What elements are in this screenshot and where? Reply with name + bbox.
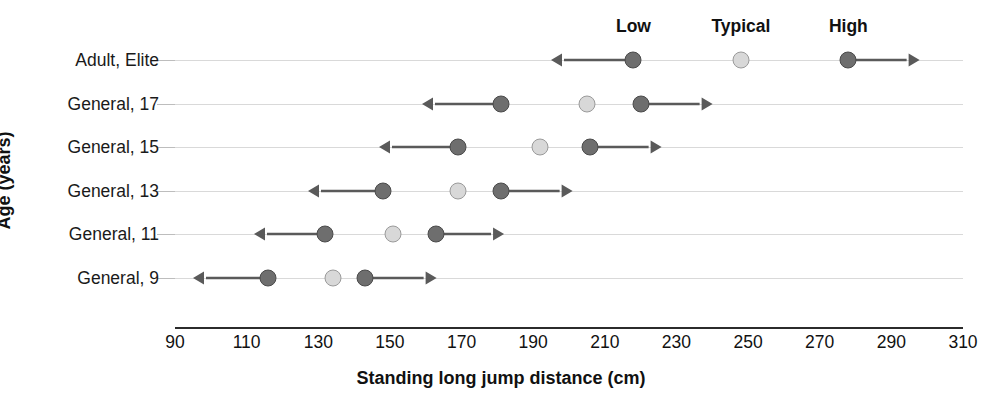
data-point-typical [732, 52, 749, 69]
data-point-low [260, 269, 277, 286]
data-point-low [625, 52, 642, 69]
column-header-high: High [829, 16, 868, 37]
x-tick-label: 170 [447, 332, 476, 353]
data-point-high [492, 182, 509, 199]
data-point-high [356, 269, 373, 286]
x-tick-label: 190 [519, 332, 548, 353]
y-tick-stub [157, 191, 175, 192]
y-tick-stub [157, 234, 175, 235]
data-point-low [449, 139, 466, 156]
y-tick-label-adult-elite: Adult, Elite [75, 50, 159, 71]
column-header-low: Low [616, 16, 651, 37]
gridline [175, 147, 963, 148]
y-tick-label-general-17: General, 17 [68, 93, 159, 114]
x-tick-label: 90 [165, 332, 184, 353]
data-point-high [428, 226, 445, 243]
data-point-typical [385, 226, 402, 243]
data-point-typical [449, 182, 466, 199]
data-point-typical [578, 95, 595, 112]
column-header-typical: Typical [711, 16, 770, 37]
y-tick-label-general-15: General, 15 [68, 137, 159, 158]
y-tick-label-general-9: General, 9 [77, 267, 159, 288]
data-point-high [632, 95, 649, 112]
y-tick-stub [157, 104, 175, 105]
x-tick-label: 130 [304, 332, 333, 353]
data-point-high [582, 139, 599, 156]
y-tick-stub [157, 278, 175, 279]
gridline [175, 278, 963, 279]
y-tick-stub [157, 60, 175, 61]
x-axis-line [175, 327, 963, 329]
y-axis-title: Age (years) [0, 131, 15, 229]
x-axis-title: Standing long jump distance (cm) [0, 368, 1002, 389]
x-tick-label: 290 [877, 332, 906, 353]
y-tick-label-general-13: General, 13 [68, 180, 159, 201]
y-tick-label-general-11: General, 11 [69, 224, 159, 245]
plot-area: LowTypicalHigh Adult, EliteGeneral, 17Ge… [0, 0, 1002, 410]
data-point-high [840, 52, 857, 69]
data-point-low [492, 95, 509, 112]
x-tick-label: 150 [375, 332, 404, 353]
x-tick-label: 310 [948, 332, 977, 353]
x-tick-label: 210 [590, 332, 619, 353]
data-point-typical [324, 269, 341, 286]
data-point-low [374, 182, 391, 199]
x-tick-label: 230 [662, 332, 691, 353]
data-point-low [317, 226, 334, 243]
x-tick-label: 270 [805, 332, 834, 353]
data-point-typical [532, 139, 549, 156]
x-tick-label: 250 [733, 332, 762, 353]
y-tick-stub [157, 147, 175, 148]
x-tick-label: 110 [233, 332, 261, 353]
standing-long-jump-chart: LowTypicalHigh Adult, EliteGeneral, 17Ge… [0, 0, 1002, 410]
gridline [175, 104, 963, 105]
